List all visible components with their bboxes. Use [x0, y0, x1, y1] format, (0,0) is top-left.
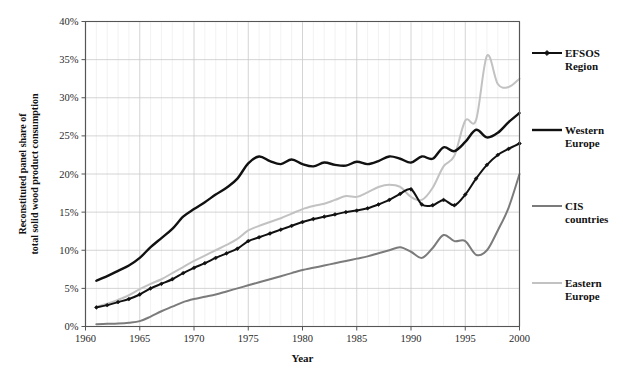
y-axis-title: Reconstituted panel share oftotal solid … [17, 93, 40, 254]
legend-label-line1: CIS [565, 200, 583, 212]
x-tick-label: 1970 [184, 333, 205, 344]
y-tick-labels: 0%5%10%15%20%25%30%35%40% [59, 16, 79, 332]
x-tick-labels: 196019651970197519801985199019952000 [75, 333, 530, 344]
y-tick-label: 0% [65, 321, 79, 332]
legend-label-line1: Western [565, 124, 604, 136]
x-tick-label: 1960 [75, 333, 96, 344]
chart-figure: 196019651970197519801985199019952000 0%5… [0, 0, 623, 381]
y-tick-label: 25% [59, 130, 79, 141]
x-tick-label: 1965 [129, 333, 150, 344]
y-tick-label: 15% [59, 207, 79, 218]
legend-marker [544, 50, 549, 55]
x-axis-title: Year [292, 352, 314, 364]
y-tick-label: 35% [59, 54, 79, 65]
legend-item-eastern[interactable]: EasternEurope [532, 277, 602, 302]
legend-label-line2: countries [565, 213, 609, 225]
legend-label-line2: Europe [565, 137, 600, 149]
x-tick-label: 1985 [346, 333, 367, 344]
x-tick-label: 1980 [292, 333, 313, 344]
legend-item-western[interactable]: WesternEurope [532, 124, 604, 149]
chart-legend: EFSOSRegionWesternEuropeCIScountriesEast… [532, 47, 609, 302]
legend-label-line1: Eastern [565, 277, 602, 289]
y-tick-label: 40% [59, 16, 79, 27]
x-tick-label: 1995 [455, 333, 476, 344]
x-tick-label: 1975 [238, 333, 259, 344]
y-tick-label: 30% [59, 92, 79, 103]
legend-label-line2: Region [565, 60, 598, 72]
y-tick-label: 5% [65, 283, 79, 294]
x-tick-label: 2000 [509, 333, 530, 344]
legend-label-line2: Europe [565, 290, 600, 302]
y-axis-title-line2: total solid wood product consumption [29, 93, 40, 254]
y-tick-label: 10% [59, 245, 79, 256]
line-chart: 196019651970197519801985199019952000 0%5… [0, 0, 623, 381]
x-tick-label: 1990 [401, 333, 422, 344]
legend-item-cis[interactable]: CIScountries [532, 200, 609, 225]
y-axis-title-line1: Reconstituted panel share of [17, 113, 28, 235]
y-tick-label: 20% [59, 169, 79, 180]
legend-label-line1: EFSOS [565, 47, 600, 59]
legend-item-efsos[interactable]: EFSOSRegion [532, 47, 600, 72]
